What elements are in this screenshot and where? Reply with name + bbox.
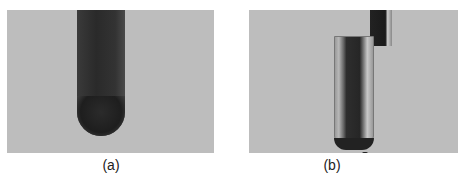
drop bbox=[362, 152, 368, 153]
photo-panel-a bbox=[7, 10, 214, 153]
sediment bbox=[77, 96, 125, 136]
photo-panel-b bbox=[249, 10, 458, 153]
caption-a: (a) bbox=[91, 157, 131, 173]
settled-sediment bbox=[334, 138, 374, 150]
test-tube-clear bbox=[334, 36, 374, 148]
caption-b: (b) bbox=[312, 157, 352, 173]
test-tube-dark-suspension bbox=[77, 10, 125, 136]
